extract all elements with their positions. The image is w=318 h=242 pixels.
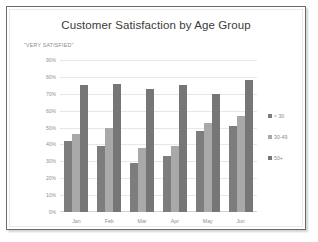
y-axis-tick-label: 70%	[46, 91, 56, 97]
bar	[245, 80, 253, 212]
bar	[138, 148, 146, 212]
bar-group	[126, 60, 159, 212]
bar	[97, 146, 105, 212]
x-axis-tick-label: Jun	[236, 218, 244, 224]
legend-item-label: 50+	[274, 155, 283, 161]
x-axis-tick-label: May	[203, 218, 213, 224]
bar	[105, 128, 113, 212]
bar	[146, 89, 154, 212]
bar	[179, 85, 187, 212]
bar-groups	[60, 60, 257, 212]
bar-group	[93, 60, 126, 212]
bar	[163, 156, 171, 212]
legend-swatch-icon	[268, 114, 272, 118]
y-axis-tick-label: 60%	[46, 108, 56, 114]
y-axis-tick-label: 30%	[46, 158, 56, 164]
legend-item-label: < 30	[274, 113, 284, 119]
chart-legend: < 3030-4950+	[268, 113, 312, 176]
y-axis-tick-label: 50%	[46, 125, 56, 131]
bar-group	[158, 60, 191, 212]
y-axis-tick-label: 40%	[46, 141, 56, 147]
legend-item[interactable]: 30-49	[268, 134, 312, 140]
y-axis-tick-label: 90%	[46, 57, 56, 63]
bar	[171, 146, 179, 212]
bar	[72, 134, 80, 212]
y-axis-tick-label: 10%	[46, 192, 56, 198]
bar	[237, 116, 245, 212]
x-axis-tick-label: Mar	[138, 218, 147, 224]
chart-title: Customer Satisfaction by Age Group	[10, 19, 302, 31]
legend-swatch-icon	[268, 156, 272, 160]
y-axis-tick-label: 0%	[49, 209, 56, 215]
bar	[204, 123, 212, 213]
bar	[196, 131, 204, 212]
bar-group	[224, 60, 257, 212]
y-axis-tick-label: 20%	[46, 175, 56, 181]
y-axis-tick-label: 80%	[46, 74, 56, 80]
x-axis-tick-label: Apr	[171, 218, 179, 224]
plot-area: 90%80%70%60%50%40%30%20%10%0% JanFebMarA…	[60, 60, 257, 212]
bar	[64, 141, 72, 212]
bar	[130, 163, 138, 212]
bar	[229, 126, 237, 212]
bar-group	[191, 60, 224, 212]
legend-item[interactable]: < 30	[268, 113, 312, 119]
bar-group	[60, 60, 93, 212]
chart-plot-container: Customer Satisfaction by Age Group "VERY…	[9, 9, 303, 227]
legend-swatch-icon	[268, 135, 272, 139]
chart-subtitle: "VERY SATISFIED"	[24, 42, 73, 48]
legend-item-label: 30-49	[274, 134, 287, 140]
x-axis-tick-label: Jan	[72, 218, 80, 224]
bar	[113, 84, 121, 212]
legend-item[interactable]: 50+	[268, 155, 312, 161]
bar	[212, 94, 220, 212]
chart-frame: Customer Satisfaction by Age Group "VERY…	[6, 6, 306, 230]
x-axis-tick-label: Feb	[105, 218, 114, 224]
bar	[80, 85, 88, 212]
